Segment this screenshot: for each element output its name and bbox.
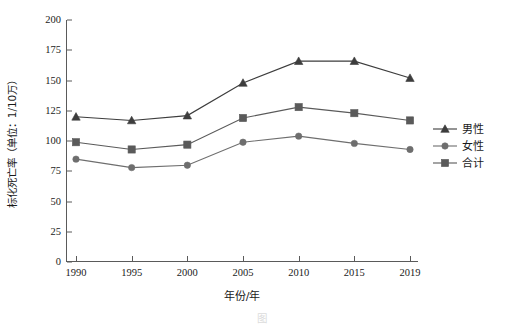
legend-label: 男性: [462, 124, 484, 135]
y-tick-label: 125: [45, 106, 67, 117]
x-tick-label: 1990: [66, 261, 87, 279]
x-tick-label: 2015: [344, 261, 365, 279]
figure-caption: 图: [0, 310, 524, 325]
y-axis-title-text: 标化死亡率（单位：1/10万）: [5, 74, 20, 208]
y-tick-label: 175: [45, 45, 67, 56]
series-女性: [73, 133, 413, 171]
square-marker-icon: [432, 157, 458, 169]
x-tick-label: 2019: [400, 261, 421, 279]
data-point: [239, 114, 246, 121]
data-point: [240, 139, 246, 145]
legend-label: 合计: [462, 158, 484, 169]
series-line: [76, 61, 410, 120]
data-point: [183, 111, 191, 119]
data-point: [128, 164, 134, 170]
circle-marker-icon: [432, 140, 458, 152]
legend-item-合计[interactable]: 合计: [432, 156, 484, 170]
data-point: [407, 146, 413, 152]
x-axis-title: 年份/年: [66, 287, 418, 303]
plot-area: 0255075100125150175200 19901995200020052…: [66, 20, 418, 262]
data-point: [406, 117, 413, 124]
x-tick-label: 2005: [233, 261, 254, 279]
y-axis-title: 标化死亡率（单位：1/10万）: [4, 20, 20, 262]
triangle-marker-icon: [432, 123, 458, 135]
data-point: [128, 146, 135, 153]
x-tick-label: 1995: [121, 261, 142, 279]
data-point: [295, 133, 301, 139]
legend-item-男性[interactable]: 男性: [432, 122, 484, 136]
data-point: [72, 113, 80, 121]
x-tick-label: 2000: [177, 261, 198, 279]
data-point: [184, 162, 190, 168]
y-tick-label: 50: [51, 196, 68, 207]
y-tick-label: 200: [45, 15, 67, 26]
y-tick-label: 150: [45, 75, 67, 86]
data-point: [73, 156, 79, 162]
data-point: [351, 110, 358, 117]
data-point: [351, 140, 357, 146]
y-tick-label: 100: [45, 136, 67, 147]
y-tick-label: 75: [51, 166, 68, 177]
legend-label: 女性: [462, 141, 484, 152]
data-point: [295, 104, 302, 111]
x-tick-label: 2010: [288, 261, 309, 279]
data-point: [184, 141, 191, 148]
y-tick-label: 25: [51, 227, 68, 238]
chart-legend: 男性女性合计: [432, 122, 484, 170]
chart-series-layer: [67, 20, 419, 262]
data-point: [239, 79, 247, 87]
legend-item-女性[interactable]: 女性: [432, 139, 484, 153]
data-point: [72, 139, 79, 146]
